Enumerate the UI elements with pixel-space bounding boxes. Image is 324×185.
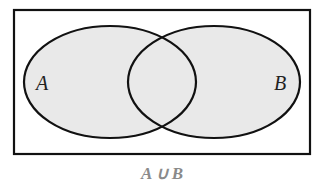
- set-a-label: A: [34, 72, 49, 94]
- set-b-label: B: [274, 72, 286, 94]
- union-shading: [24, 26, 300, 138]
- diagram-caption: A ∪ B: [0, 163, 324, 184]
- venn-diagram: A B: [0, 0, 324, 185]
